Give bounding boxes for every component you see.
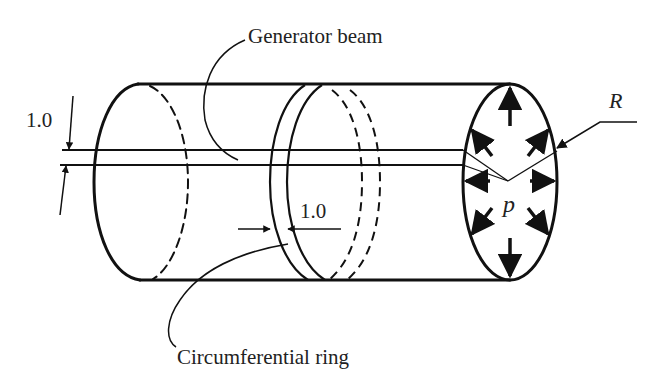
ring-width-label: 1.0: [300, 199, 326, 223]
generator-beam-label: Generator beam: [248, 24, 383, 48]
cylinder-left-end: [94, 84, 140, 280]
section-lines: [463, 150, 557, 181]
pressure-arrows: [466, 88, 554, 276]
circumferential-ring-label: Circumferential ring: [177, 345, 350, 369]
generator-beam: [60, 150, 463, 165]
circumferential-ring-leader: [169, 244, 288, 347]
beam-width-dimension: [60, 96, 73, 215]
pressure-arrow-lower-left: [472, 208, 492, 234]
beam-width-label: 1.0: [26, 108, 52, 132]
cylinder-diagram: 1.0 1.0 R p Generator beam Circumferenti…: [0, 0, 658, 386]
ring-front-edge-left: [270, 85, 308, 280]
generator-beam-leader: [204, 40, 245, 160]
ring-hidden-edge-left: [330, 90, 362, 279]
circumferential-ring: [270, 85, 380, 280]
ring-front-edge-right: [287, 85, 325, 280]
pressure-arrow-upper-right: [528, 130, 548, 156]
pressure-arrow-lower-right: [528, 208, 548, 234]
radius-label: R: [608, 88, 623, 113]
pressure-label: p: [501, 191, 515, 217]
hidden-section-left: [150, 86, 188, 279]
pressure-arrow-upper-left: [472, 130, 492, 156]
cylinder-right-end: [463, 84, 557, 280]
radius-leader: [557, 122, 637, 148]
